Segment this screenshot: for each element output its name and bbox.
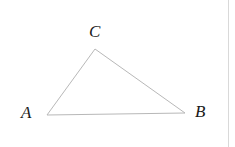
triangle-diagram — [0, 0, 235, 147]
right-edge-divider — [228, 0, 229, 147]
geometry-figure-canvas: A B C — [0, 0, 235, 147]
vertex-label-b: B — [195, 103, 205, 120]
vertex-label-a: A — [21, 104, 31, 121]
triangle-abc-outline — [47, 49, 185, 115]
vertex-label-c: C — [89, 23, 100, 40]
